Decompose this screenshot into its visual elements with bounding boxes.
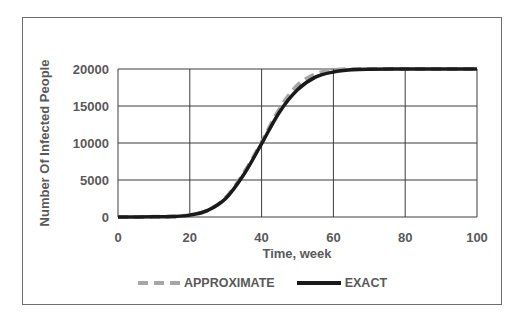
x-tick-label: 0 (114, 230, 121, 245)
solid-line-swatch-icon (297, 280, 343, 286)
x-axis-label: Time, week (262, 246, 331, 261)
y-tick-label: 20000 (73, 62, 109, 77)
x-tick-label: 40 (254, 230, 268, 245)
y-tick-label: 5000 (80, 173, 109, 188)
legend: APPROXIMATE EXACT (0, 276, 523, 290)
y-tick-label: 15000 (73, 99, 109, 114)
y-tick-label: 10000 (73, 136, 109, 151)
legend-label-approximate: APPROXIMATE (184, 276, 275, 290)
y-tick-label: 0 (102, 210, 109, 225)
x-tick-label: 100 (466, 230, 488, 245)
x-tick-label: 80 (398, 230, 412, 245)
legend-item-exact: EXACT (297, 276, 387, 290)
y-axis-label: Number Of Infected People (37, 60, 52, 227)
x-tick-label: 60 (326, 230, 340, 245)
dashed-line-swatch-icon (136, 280, 182, 286)
legend-label-exact: EXACT (345, 276, 387, 290)
legend-item-approximate: APPROXIMATE (136, 276, 275, 290)
x-tick-label: 20 (183, 230, 197, 245)
